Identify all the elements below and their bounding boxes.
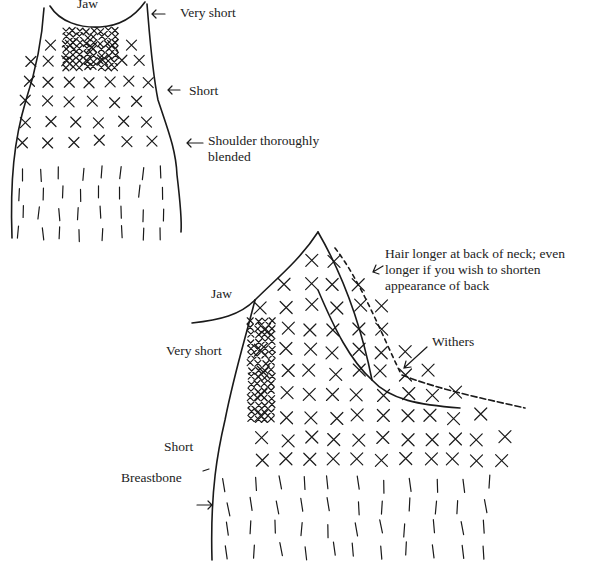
side-withers-label: Withers — [432, 333, 474, 350]
side-jaw-label: Jaw — [211, 285, 232, 302]
side-short-label: Short — [164, 438, 193, 455]
illustration — [0, 0, 592, 580]
front-shoulder-label-1: Shoulder thoroughly — [208, 132, 319, 149]
side-hair-label-3: appearance of back — [385, 277, 489, 294]
front-view-hair-strokes — [17, 166, 163, 242]
front-shoulder-label-2: blended — [208, 148, 251, 165]
front-short-label: Short — [189, 82, 218, 99]
front-view-outline — [12, 2, 182, 238]
side-hair-label-1: Hair longer at back of neck; even — [385, 245, 565, 262]
side-breastbone-label: Breastbone — [121, 469, 182, 486]
side-view-hair-strokes — [223, 475, 490, 560]
front-view-cross-hatching — [17, 27, 157, 148]
front-jaw-label: Jaw — [77, 0, 98, 12]
front-very-short-label: Very short — [180, 4, 236, 21]
side-very-short-label: Very short — [166, 342, 222, 359]
side-hair-label-2: longer if you wish to shorten — [385, 261, 541, 278]
